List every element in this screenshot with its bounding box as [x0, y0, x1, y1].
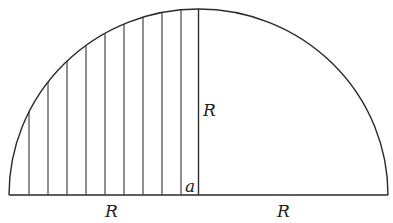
label-left-radius: R [104, 201, 118, 221]
label-strip-width: a [185, 176, 195, 196]
strip-lines [29, 10, 181, 195]
label-right-radius: R [276, 201, 290, 221]
semicircle-strip-diagram: R R R a [0, 0, 393, 223]
label-vertical-radius: R [202, 100, 216, 120]
